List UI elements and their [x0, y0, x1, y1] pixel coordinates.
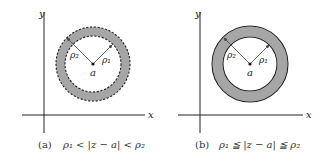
y-axis-label: y — [194, 8, 201, 19]
annulus-diagram: y x a ρ₂ ρ₁ (a) ρ₁ < |z − a| < ρ₂ y x a … — [0, 0, 331, 163]
rho2-label: ρ₂ — [69, 50, 79, 60]
caption-b-formula: ρ₁ ≦ |z − a| ≦ ρ₂ — [218, 139, 300, 151]
center-label: a — [247, 67, 253, 78]
x-axis-label: x — [306, 109, 312, 120]
caption-a-formula: ρ₁ < |z − a| < ρ₂ — [62, 139, 145, 151]
center-point — [91, 62, 94, 65]
center-label: a — [90, 67, 96, 78]
x-axis-label: x — [148, 109, 154, 120]
caption-a-tag: (a) — [38, 139, 52, 150]
rho1-label: ρ₁ — [101, 55, 111, 65]
rho2-label: ρ₂ — [226, 50, 236, 60]
rho1-label: ρ₁ — [258, 55, 268, 65]
y-axis-label: y — [38, 8, 45, 19]
caption-b-tag: (b) — [195, 139, 209, 150]
panel-b: y x a ρ₂ ρ₁ (b) ρ₁ ≦ |z − a| ≦ ρ₂ — [178, 8, 312, 151]
center-point — [248, 62, 251, 65]
panel-a: y x a ρ₂ ρ₁ (a) ρ₁ < |z − a| < ρ₂ — [22, 8, 154, 151]
